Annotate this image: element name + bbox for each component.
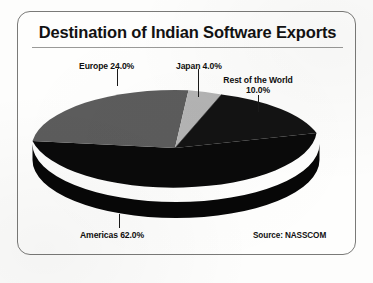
- pie-slice-europe: [33, 90, 189, 148]
- pie-label-rest-of-world-line2: 10.0%: [246, 85, 270, 95]
- pie-label-americas: Americas 62.0%: [80, 230, 144, 240]
- pie-chart-graphic: [0, 0, 373, 283]
- leader-line-rest-of-world: [258, 95, 259, 112]
- pie-label-rest-of-world: Rest of the World 10.0%: [213, 76, 303, 96]
- pie-svg: [0, 0, 373, 283]
- leader-line-japan: [198, 69, 199, 97]
- pie-label-rest-of-world-line1: Rest of the World: [223, 75, 292, 85]
- leader-line-americas: [119, 214, 120, 228]
- pie-label-europe: Europe 24.0%: [79, 61, 134, 71]
- leader-line-europe: [117, 69, 118, 86]
- source-note: Source: NASSCOM: [253, 231, 326, 240]
